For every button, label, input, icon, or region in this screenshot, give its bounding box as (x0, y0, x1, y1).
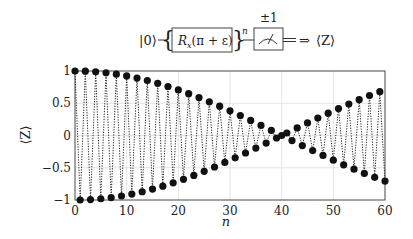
data-point (242, 149, 249, 156)
data-point (185, 90, 192, 97)
circuit-diagram: |0⟩ { Rx(π + ε) } n ±1 ⇒ ⟨Z⟩ (139, 11, 335, 52)
data-point (216, 103, 223, 110)
y-tick-label: 0 (63, 129, 71, 143)
data-point (330, 157, 337, 164)
grid (75, 71, 385, 200)
repeat-exponent: n (242, 26, 248, 36)
data-point (283, 129, 290, 136)
meter-icon (259, 34, 277, 44)
x-axis-ticks: 0102030405060 (71, 204, 392, 218)
data-point (170, 179, 177, 186)
data-point (350, 166, 357, 173)
data-point (102, 69, 109, 76)
data-point (190, 172, 197, 179)
data-point (139, 188, 146, 195)
data-point (376, 88, 383, 95)
data-point (92, 68, 99, 75)
output-arrow: ⇒ (299, 33, 310, 48)
data-point (237, 112, 244, 119)
data-point (206, 98, 213, 105)
y-axis-label: ⟨Z⟩ (18, 125, 33, 144)
data-point (232, 154, 239, 161)
data-point (226, 107, 233, 114)
left-brace: { (161, 27, 175, 52)
data-point (180, 176, 187, 183)
x-tick-label: 0 (71, 204, 79, 218)
data-point (288, 137, 295, 144)
data-point (335, 105, 342, 112)
x-tick-label: 50 (326, 204, 341, 218)
data-point (345, 100, 352, 107)
data-point (294, 124, 301, 131)
data-point (252, 144, 259, 151)
data-point (164, 83, 171, 90)
data-point (82, 68, 89, 75)
data-point (319, 152, 326, 159)
data-point (221, 159, 228, 166)
data-point (154, 80, 161, 87)
y-axis-ticks: 10.50−0.5−1 (42, 64, 71, 207)
data-point (108, 194, 115, 201)
y-tick-label: 1 (63, 64, 71, 78)
output-label: ⟨Z⟩ (316, 33, 335, 48)
data-point (175, 86, 182, 93)
y-tick-label: 0.5 (52, 96, 71, 110)
data-point (314, 114, 321, 121)
data-point (299, 142, 306, 149)
data-point (123, 72, 130, 79)
data-point (195, 94, 202, 101)
gate-label: Rx(π + ε) (177, 34, 233, 50)
x-axis-label: n (222, 214, 230, 229)
data-point (371, 174, 378, 181)
input-state: |0⟩ (139, 33, 157, 48)
y-tick-label: −1 (53, 193, 71, 207)
data-point (304, 119, 311, 126)
data-point (247, 117, 254, 124)
measurement-outcome: ±1 (260, 11, 278, 25)
data-point (149, 185, 156, 192)
data-point (309, 147, 316, 154)
data-point (144, 77, 151, 84)
data-point (128, 190, 135, 197)
data-point (133, 74, 140, 81)
data-point (361, 170, 368, 177)
figure: |0⟩ { Rx(π + ε) } n ±1 ⇒ ⟨Z⟩ 01020304050… (0, 0, 413, 239)
data-point (268, 127, 275, 134)
data-point (356, 96, 363, 103)
data-point (77, 196, 84, 203)
data-point (366, 92, 373, 99)
data-point (113, 71, 120, 78)
data-point (159, 183, 166, 190)
data-point (325, 110, 332, 117)
x-tick-label: 10 (119, 204, 134, 218)
data-point (340, 161, 347, 168)
x-tick-label: 40 (274, 204, 289, 218)
data-point (118, 192, 125, 199)
data-point (211, 163, 218, 170)
data-point (381, 178, 388, 185)
data-point (257, 122, 264, 129)
y-tick-label: −0.5 (42, 161, 71, 175)
data-point (201, 168, 208, 175)
data-point (97, 195, 104, 202)
data-point (263, 140, 270, 147)
x-tick-label: 60 (377, 204, 392, 218)
x-tick-label: 20 (171, 204, 186, 218)
data-point (71, 67, 78, 74)
data-point (87, 196, 94, 203)
